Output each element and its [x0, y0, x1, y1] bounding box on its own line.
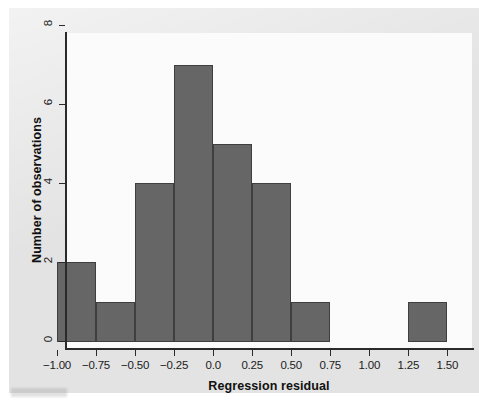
x-tick: [57, 350, 58, 356]
histogram-bar: [174, 65, 213, 343]
x-tick: [369, 350, 370, 356]
x-tick-label: 1.50: [422, 359, 472, 371]
x-tick: [213, 350, 214, 356]
x-tick: [174, 350, 175, 356]
histogram-bar: [408, 302, 447, 343]
x-tick: [330, 350, 331, 356]
histogram-bar: [96, 302, 135, 343]
y-tick: [59, 341, 65, 342]
x-tick: [291, 350, 292, 356]
y-tick: [59, 183, 65, 184]
x-axis-title: Regression residual: [66, 379, 472, 393]
figure-page: −1.00−0.75−0.50−0.250.00.250.500.751.001…: [0, 0, 479, 403]
x-axis-line: [65, 348, 474, 350]
histogram-bar: [213, 144, 252, 343]
figure-panel: −1.00−0.75−0.50−0.250.00.250.500.751.001…: [9, 8, 479, 393]
x-tick: [252, 350, 253, 356]
y-tick-label: 0: [39, 333, 57, 345]
histogram-bar: [252, 183, 291, 342]
histogram-bar: [291, 302, 330, 343]
x-tick: [408, 350, 409, 356]
y-tick: [59, 262, 65, 263]
y-tick-label-text: 0: [42, 336, 54, 342]
y-tick-label: 8: [39, 17, 57, 29]
scan-artifact: [11, 388, 67, 397]
y-axis-line: [65, 32, 67, 350]
x-tick: [135, 350, 136, 356]
x-tick: [447, 350, 448, 356]
histogram-bar: [57, 262, 96, 342]
y-tick: [59, 104, 65, 105]
x-tick: [96, 350, 97, 356]
histogram-bar: [135, 183, 174, 342]
y-axis-title: Number of observations: [30, 100, 44, 280]
y-tick-label-text: 8: [42, 20, 54, 26]
y-tick: [59, 25, 65, 26]
